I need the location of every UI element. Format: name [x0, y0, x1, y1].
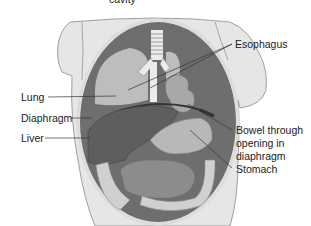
label-diaphragm: Diaphragm: [21, 112, 72, 124]
label-bowel-line3: diaphragm: [236, 150, 286, 162]
label-bowel-line2: opening in: [236, 137, 284, 149]
label-esophagus: Esophagus: [235, 38, 288, 50]
esophagus: [150, 62, 157, 102]
label-lung: Lung: [21, 91, 44, 103]
trachea: [151, 30, 163, 60]
anatomy-diagram: cavity: [0, 0, 311, 226]
label-liver: Liver: [21, 132, 44, 144]
label-bowel-line1: Bowel through: [236, 124, 303, 136]
small-intestine: [120, 160, 195, 199]
label-stomach: Stomach: [236, 163, 277, 175]
